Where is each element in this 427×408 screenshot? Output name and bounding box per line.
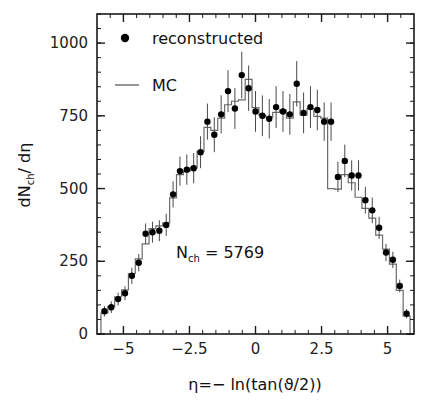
data-point [266, 116, 272, 122]
data-point [156, 228, 162, 234]
data-point [149, 229, 155, 235]
data-point [239, 72, 245, 78]
data-point [245, 85, 251, 91]
data-point [369, 207, 375, 213]
data-point [342, 158, 348, 164]
data-point [383, 249, 389, 255]
legend-label-mc: MC [152, 76, 177, 95]
data-point [204, 118, 210, 124]
data-point [307, 104, 313, 110]
annotation-lead: N [176, 243, 188, 262]
y-tick-label: 1000 [50, 34, 88, 52]
data-point [142, 230, 148, 236]
data-point [294, 81, 300, 87]
data-point [225, 88, 231, 94]
data-point [211, 132, 217, 138]
x-tick-label: 0 [251, 340, 261, 358]
chart-canvas: −5−2.502.55 02505007501000 dNch/ dη η=− … [0, 0, 427, 408]
annotation-sub: ch [188, 253, 200, 264]
data-point [232, 105, 238, 111]
x-tick-label: 5 [383, 340, 393, 358]
data-point [218, 111, 224, 117]
legend-marker-reconstructed [121, 34, 129, 42]
data-point [122, 290, 128, 296]
annotation-tail: = 5769 [200, 243, 264, 262]
data-point [177, 168, 183, 174]
data-point [197, 149, 203, 155]
data-point [376, 225, 382, 231]
data-point [115, 296, 121, 302]
data-point [101, 308, 107, 314]
data-point [136, 260, 142, 266]
legend-label-reconstructed: reconstructed [152, 29, 263, 48]
data-point [129, 273, 135, 279]
data-point [108, 304, 114, 310]
data-point [362, 197, 368, 203]
data-point [321, 118, 327, 124]
y-tick-label: 750 [59, 107, 88, 125]
data-point [314, 107, 320, 113]
y-tick-label: 250 [59, 252, 88, 270]
data-point [280, 108, 286, 114]
data-point [273, 104, 279, 110]
y-tick-label: 0 [78, 325, 88, 343]
data-point [170, 191, 176, 197]
data-point [190, 165, 196, 171]
data-point [184, 166, 190, 172]
y-axis-title-tail: / dη [15, 143, 34, 174]
data-point [259, 113, 265, 119]
data-point [390, 257, 396, 263]
data-point [252, 108, 258, 114]
data-point [348, 172, 354, 178]
x-tick-label: −2.5 [171, 340, 207, 358]
data-point [287, 111, 293, 117]
data-point [355, 172, 361, 178]
data-point [397, 283, 403, 289]
figure-background [0, 0, 427, 408]
x-tick-label: −5 [112, 340, 134, 358]
data-point [328, 118, 334, 124]
y-tick-label: 500 [59, 180, 88, 198]
data-point [300, 110, 306, 116]
data-point [403, 310, 409, 316]
data-point [335, 174, 341, 180]
chart-figure: −5−2.502.55 02505007501000 dNch/ dη η=− … [0, 0, 427, 408]
data-point [163, 222, 169, 228]
y-axis-title-sub: ch [25, 173, 36, 185]
y-axis-title-lead: dN [15, 185, 34, 207]
x-tick-label: 2.5 [310, 340, 334, 358]
x-axis-title: η=− ln(tan(ϑ/2)) [188, 375, 321, 394]
